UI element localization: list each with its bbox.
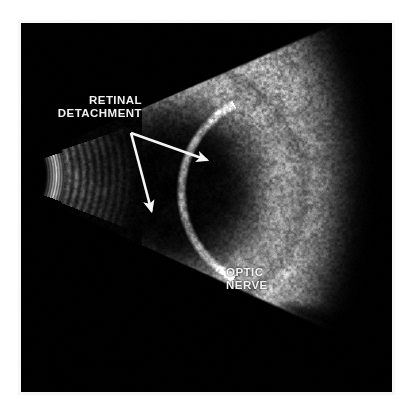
figure-root: RETINAL DETACHMENT OPTIC NERVE	[0, 0, 414, 410]
retinal-detachment-label: RETINAL DETACHMENT	[21, 94, 142, 120]
ultrasound-scan-panel: RETINAL DETACHMENT OPTIC NERVE	[21, 23, 392, 392]
ultrasound-scan-image	[21, 23, 392, 392]
optic-nerve-label: OPTIC NERVE	[226, 266, 268, 292]
